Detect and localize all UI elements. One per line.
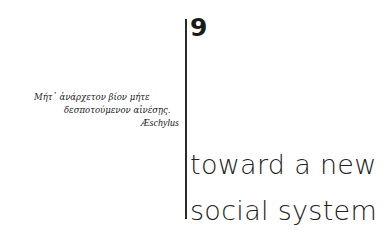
chapter-title-line-1: toward a new bbox=[190, 150, 377, 180]
chapter-title-line-2: social system bbox=[190, 196, 377, 226]
epigraph-line-2: δεσποτούμενον αἰνέσῃς. bbox=[64, 104, 171, 116]
chapter-number: 9 bbox=[190, 14, 207, 42]
epigraph-author: Æschylus bbox=[141, 117, 179, 129]
vertical-divider-rule bbox=[185, 19, 187, 219]
epigraph-line-1: Μήτ᾽ ἀνάρχετον βίον μήτε bbox=[34, 91, 150, 103]
